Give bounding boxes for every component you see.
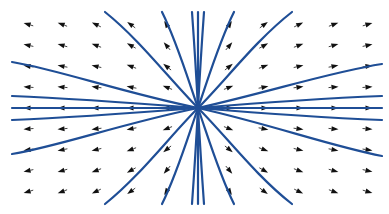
arrow-tail xyxy=(133,88,136,89)
arrow-tail xyxy=(133,168,136,169)
arrow-glyph xyxy=(296,85,303,90)
arrow-glyph xyxy=(127,22,134,28)
arrow-tail xyxy=(294,169,297,170)
arrow-glyph xyxy=(296,167,303,172)
arrow-glyph xyxy=(24,168,31,173)
arrow-tail xyxy=(133,148,136,149)
arrow-glyph xyxy=(226,125,233,130)
arrow-tail xyxy=(64,67,67,68)
arrow-tail xyxy=(363,170,366,171)
arrow-glyph xyxy=(127,188,134,194)
arrow-glyph xyxy=(331,147,338,152)
arrow-glyph xyxy=(261,22,268,28)
arrow-glyph xyxy=(331,85,338,90)
arrow-glyph xyxy=(261,65,268,70)
arrow-glyph xyxy=(261,43,268,49)
arrow-tail xyxy=(294,148,297,149)
arrow-glyph xyxy=(331,168,338,173)
arrow-tail xyxy=(133,128,136,129)
arrow-glyph xyxy=(261,188,268,194)
arrow-tail xyxy=(64,25,67,26)
arrow-tail xyxy=(363,46,366,47)
arrow-tail xyxy=(225,146,227,148)
arrow-glyph xyxy=(127,126,134,131)
arrow-glyph xyxy=(58,126,65,131)
arrow-tail xyxy=(259,128,262,129)
arrow-glyph xyxy=(58,147,65,152)
arrow-glyph xyxy=(365,43,372,48)
arrow-tail xyxy=(259,47,262,48)
arrow-tail xyxy=(259,168,262,169)
arrow-glyph xyxy=(296,64,303,69)
arrow-tail xyxy=(98,67,101,68)
arrow-tail xyxy=(98,26,101,27)
arrow-tail xyxy=(329,190,332,191)
arrow-tail xyxy=(363,25,366,26)
arrow-tail xyxy=(226,166,228,168)
arrow-tail xyxy=(30,170,33,171)
arrow-tail xyxy=(224,127,227,128)
arrow-glyph xyxy=(92,167,99,172)
arrow-glyph xyxy=(58,23,65,28)
arrow-tail xyxy=(168,48,170,50)
arrow-glyph xyxy=(296,44,303,49)
arrow-tail xyxy=(294,189,297,190)
arrow-glyph xyxy=(24,189,31,194)
arrow-glyph xyxy=(365,147,372,152)
arrow-glyph xyxy=(127,167,134,173)
arrow-glyph xyxy=(92,147,99,152)
arrow-tail xyxy=(329,149,332,150)
arrow-glyph xyxy=(261,85,268,90)
arrow-glyph xyxy=(365,85,372,90)
arrow-glyph xyxy=(92,188,99,193)
arrow-tail xyxy=(168,166,170,168)
streamline xyxy=(198,108,292,204)
arrow-tail xyxy=(133,47,136,48)
arrow-tail xyxy=(259,88,262,89)
arrow-tail xyxy=(294,46,297,47)
streamline xyxy=(198,12,292,108)
arrow-glyph xyxy=(58,188,65,193)
arrow-tail xyxy=(133,26,135,28)
arrow-glyph xyxy=(331,44,338,49)
arrow-tail xyxy=(30,46,33,47)
arrow-glyph xyxy=(163,146,170,152)
center-node xyxy=(195,105,201,111)
arrow-glyph xyxy=(127,65,134,70)
arrow-tail xyxy=(363,190,366,191)
arrow-tail xyxy=(169,88,172,89)
arrow-tail xyxy=(64,190,67,191)
arrow-tail xyxy=(294,67,297,68)
arrow-glyph xyxy=(92,22,99,27)
streamline xyxy=(105,108,198,204)
arrow-tail xyxy=(64,149,67,150)
arrow-glyph xyxy=(365,23,372,28)
arrow-tail xyxy=(329,169,332,170)
arrow-glyph xyxy=(261,167,268,173)
arrow-glyph xyxy=(296,147,303,152)
arrow-glyph xyxy=(24,85,31,90)
arrow-tail xyxy=(260,26,262,28)
arrow-glyph xyxy=(24,43,31,48)
arrow-glyph xyxy=(127,146,134,151)
arrow-glyph xyxy=(163,86,170,91)
arrow-tail xyxy=(30,25,33,26)
arrow-tail xyxy=(329,25,332,26)
arrow-glyph xyxy=(226,146,233,152)
arrow-tail xyxy=(30,190,33,191)
arrow-glyph xyxy=(24,126,31,131)
vector-field-plot xyxy=(0,0,389,214)
arrow-tail xyxy=(169,127,172,128)
arrow-glyph xyxy=(261,146,268,151)
arrow-glyph xyxy=(226,64,233,70)
arrow-glyph xyxy=(163,125,170,130)
arrow-glyph xyxy=(127,85,134,90)
arrow-tail xyxy=(259,67,262,68)
arrow-glyph xyxy=(58,64,65,69)
streamline xyxy=(105,12,198,108)
arrow-tail xyxy=(133,67,136,68)
arrow-glyph xyxy=(226,86,233,91)
arrow-tail xyxy=(225,68,227,70)
arrow-glyph xyxy=(331,126,338,131)
arrow-tail xyxy=(260,188,262,190)
